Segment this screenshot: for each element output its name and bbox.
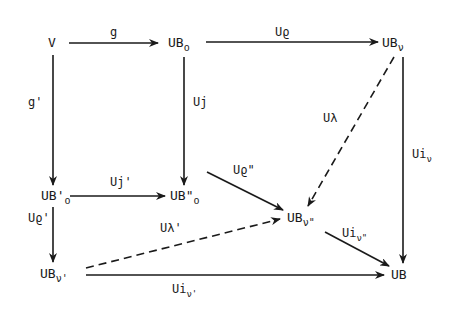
node-ub-prime-o: UB'o bbox=[41, 189, 71, 206]
node-ub-label: UB bbox=[391, 267, 407, 282]
label-ujprime-text: Uj' bbox=[110, 175, 132, 189]
label-urhopp: Uϱ" bbox=[233, 164, 255, 176]
node-ub-dprime-o: UB"o bbox=[170, 189, 200, 206]
node-ub-nu-prime-sub: ν' bbox=[56, 273, 68, 284]
node-ub-prime-o-label: UB' bbox=[41, 188, 64, 203]
label-uinuprime-sub: ν' bbox=[186, 289, 197, 299]
node-ub-prime-o-sub: o bbox=[64, 195, 70, 206]
node-ub-o: UBo bbox=[168, 36, 190, 53]
label-uinuprime-text: Ui bbox=[172, 282, 186, 296]
label-g-text: g bbox=[110, 25, 117, 39]
label-ulambda-text: Uλ bbox=[323, 111, 337, 125]
node-v: V bbox=[48, 36, 56, 49]
node-v-label: V bbox=[48, 35, 56, 50]
node-ub-o-label: UB bbox=[168, 35, 184, 50]
label-urho-text: Uϱ bbox=[275, 25, 289, 39]
label-uinuprime: Uiν' bbox=[172, 283, 197, 299]
label-uinupp-sub: ν" bbox=[356, 233, 367, 243]
node-ub-nu-dprime-label: UB bbox=[287, 210, 303, 225]
label-urhopp-text: Uϱ" bbox=[233, 163, 255, 177]
arrow-ulambdaprime bbox=[86, 219, 280, 268]
label-ulambdaprime: Uλ' bbox=[160, 222, 182, 234]
arrow-urhopp bbox=[207, 172, 283, 210]
label-ujprime: Uj' bbox=[110, 176, 132, 188]
node-ub-dprime-o-sub: o bbox=[193, 195, 199, 206]
label-ulambdaprime-text: Uλ' bbox=[160, 221, 182, 235]
label-uinu-text: Ui bbox=[412, 147, 426, 161]
label-gprime-text: g' bbox=[28, 95, 42, 109]
node-ub-nu-prime: UBν' bbox=[40, 267, 68, 284]
label-urho: Uϱ bbox=[275, 26, 289, 38]
label-uj-text: Uj bbox=[193, 95, 207, 109]
node-ub-nu-label: UB bbox=[382, 35, 398, 50]
node-ub-dprime-o-label: UB" bbox=[170, 188, 193, 203]
node-ub-o-sub: o bbox=[184, 42, 190, 53]
label-urhoprime-text: Uϱ' bbox=[28, 211, 50, 225]
node-ub-nu-prime-label: UB bbox=[40, 266, 56, 281]
arrow-ulambda bbox=[308, 57, 394, 206]
label-urhoprime: Uϱ' bbox=[28, 212, 50, 224]
label-uinu-sub: ν bbox=[426, 154, 431, 164]
node-ub: UB bbox=[391, 268, 407, 281]
label-uinupp-text: Ui bbox=[342, 226, 356, 240]
label-uinupp: Uiν" bbox=[342, 227, 367, 243]
label-gprime: g' bbox=[28, 96, 42, 108]
label-ulambda: Uλ bbox=[323, 112, 337, 124]
label-uinu: Uiν bbox=[412, 148, 432, 164]
node-ub-nu-sub: ν bbox=[398, 42, 404, 53]
node-ub-nu-dprime-sub: ν" bbox=[303, 217, 315, 228]
label-g: g bbox=[110, 26, 117, 38]
label-uj: Uj bbox=[193, 96, 207, 108]
node-ub-nu-dprime: UBν" bbox=[287, 211, 315, 228]
node-ub-nu: UBν bbox=[382, 36, 404, 53]
